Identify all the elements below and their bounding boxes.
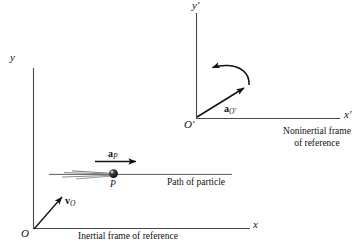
ao-prime-subscript: O′ (229, 107, 236, 116)
physics-diagram: y x O vO Inertial frame of reference aP … (0, 0, 364, 244)
inertial-y-axis-label: y (10, 52, 15, 63)
rotation-arrow (213, 65, 250, 85)
velocity-vector-vo (34, 197, 62, 229)
noninertial-x-axis-label: x′ (344, 109, 351, 120)
ao-prime-arrow-line (197, 88, 244, 117)
noninertial-frame-caption: Noninertial frame of reference (272, 126, 362, 150)
noninertial-origin-label: O′ (184, 119, 194, 130)
inertial-origin-label: O (21, 228, 29, 239)
noninertial-caption-line-2: of reference (272, 138, 362, 150)
acceleration-vector-ao-prime (197, 88, 244, 117)
vo-arrow-line (34, 197, 62, 229)
rotation-arc-path (213, 65, 250, 85)
acceleration-vector-ap-label: aP (108, 149, 118, 161)
velocity-vector-vo-label: vO (65, 196, 75, 208)
noninertial-caption-line-1: Noninertial frame (272, 126, 362, 138)
diagram-canvas (0, 0, 364, 244)
particle-point-label: P (110, 180, 116, 190)
vo-subscript: O (70, 199, 75, 208)
inertial-x-axis-label: x (253, 219, 258, 230)
particle-path-label: Path of particle (148, 178, 244, 188)
inertial-frame-caption: Inertial frame of reference (62, 232, 194, 242)
noninertial-y-axis-label: y′ (192, 0, 199, 11)
particle-marker (109, 169, 118, 178)
ap-subscript: P (113, 152, 118, 161)
acceleration-vector-ao-prime-label: aO′ (224, 104, 236, 116)
